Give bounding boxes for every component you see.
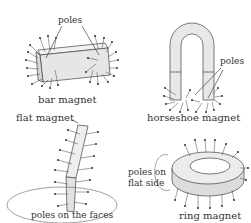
bar-poles-label: poles (58, 16, 82, 25)
horseshoe-poles-label: poles (220, 57, 244, 66)
ring-poles-label-2: flat side (128, 179, 164, 188)
bar-magnet-title: bar magnet (38, 95, 97, 105)
flat-magnet (7, 120, 117, 223)
ring-magnet-title: ring magnet (179, 211, 241, 221)
ring-magnet (155, 139, 249, 209)
ring-poles-label-1: poles on (128, 168, 166, 177)
flat-magnet-title: flat magnet (16, 113, 74, 123)
horseshoe-magnet (163, 23, 223, 113)
horseshoe-magnet-title: horseshoe magnet (147, 113, 240, 123)
flat-poles-label: poles on the faces (31, 211, 113, 220)
bar-magnet (25, 26, 119, 89)
